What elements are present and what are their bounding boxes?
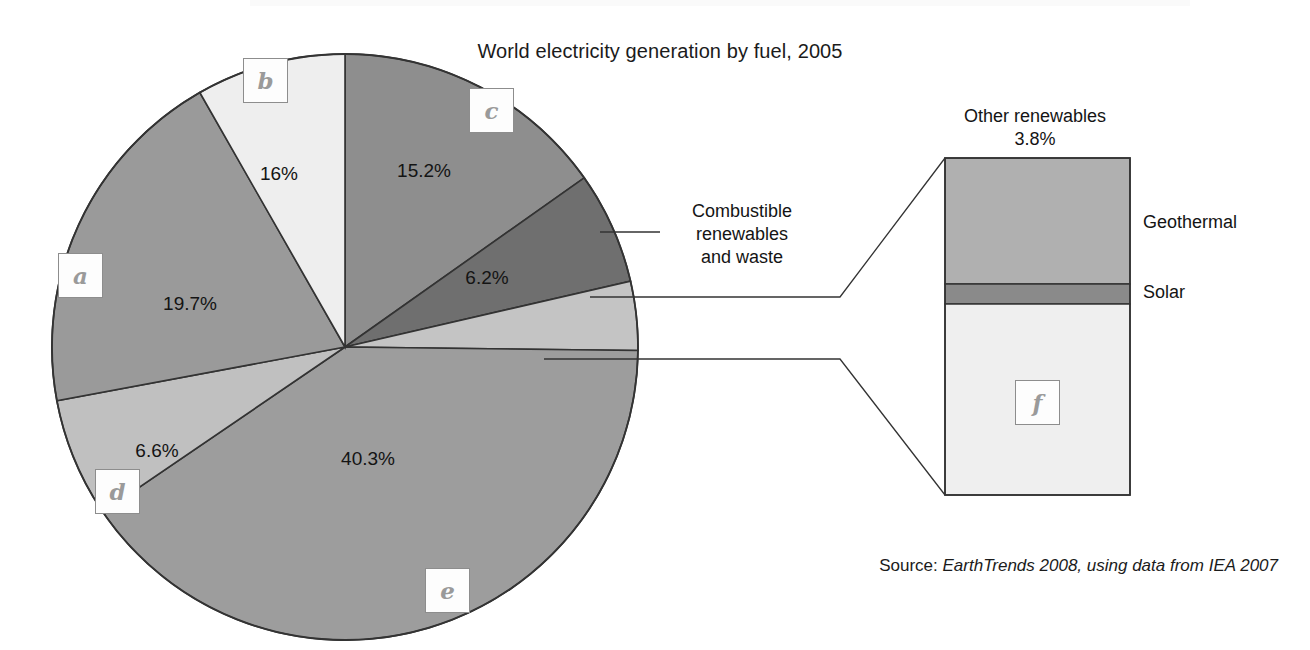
- key-box-d[interactable]: d: [95, 469, 140, 514]
- bar-heading-other-renewables: Other renewables: [905, 105, 1165, 128]
- pie-label-a-percent: 19.7%: [140, 293, 240, 315]
- pie-label-d-percent: 6.6%: [112, 440, 202, 462]
- source-citation: EarthTrends 2008, using data from IEA 20…: [943, 556, 1278, 575]
- key-box-b[interactable]: b: [243, 58, 288, 103]
- bar-segment-solar[interactable]: [945, 284, 1130, 304]
- key-box-a[interactable]: a: [58, 253, 103, 298]
- bar-heading-percent: 3.8%: [905, 128, 1165, 151]
- source-note: Source: EarthTrends 2008, using data fro…: [0, 556, 1278, 576]
- source-prefix: Source:: [879, 556, 942, 575]
- bar-heading-group: Other renewables 3.8%: [905, 105, 1165, 152]
- figure-stage: World electricity generation by fuel, 20…: [0, 0, 1310, 650]
- pie-label-c-percent: 15.2%: [374, 160, 474, 182]
- inset-stacked-bar[interactable]: [945, 158, 1130, 495]
- bar-label-solar: Solar: [1143, 282, 1185, 303]
- bar-label-geothermal: Geothermal: [1143, 212, 1237, 233]
- callout-combustible-renewables: Combustible renewables and waste: [652, 200, 832, 269]
- pie-label-e-percent: 40.3%: [318, 448, 418, 470]
- key-box-f[interactable]: f: [1015, 380, 1060, 425]
- chart-graphics: [0, 0, 1310, 650]
- chart-title: World electricity generation by fuel, 20…: [430, 40, 890, 63]
- bar-segment-geothermal[interactable]: [945, 158, 1130, 284]
- pie-label-b-percent: 16%: [234, 163, 324, 185]
- key-box-c[interactable]: c: [469, 88, 514, 133]
- pie-label-combustible-percent: 6.2%: [442, 267, 532, 289]
